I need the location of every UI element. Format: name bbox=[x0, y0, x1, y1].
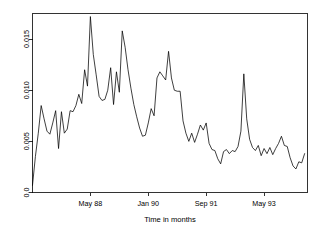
line-chart: May 88Jan 90Sep 91May 930.00.0050.0100.0… bbox=[0, 0, 323, 230]
y-tick-label: 0.005 bbox=[22, 132, 31, 150]
series-polyline bbox=[33, 17, 305, 186]
data-series bbox=[33, 17, 305, 186]
x-axis-title: Time in months bbox=[144, 215, 196, 224]
x-tick-label: May 88 bbox=[79, 199, 103, 208]
axis-box bbox=[33, 14, 308, 193]
x-tick-label: Sep 91 bbox=[195, 199, 218, 208]
x-tick-label: Jan 90 bbox=[137, 199, 159, 208]
tick-marks bbox=[29, 39, 264, 196]
x-tick-label: May 93 bbox=[252, 199, 276, 208]
y-tick-label: 0.0 bbox=[22, 188, 31, 198]
chart-figure: May 88Jan 90Sep 91May 930.00.0050.0100.0… bbox=[0, 0, 323, 230]
y-tick-label: 0.010 bbox=[22, 81, 31, 99]
y-tick-label: 0.015 bbox=[22, 30, 31, 48]
